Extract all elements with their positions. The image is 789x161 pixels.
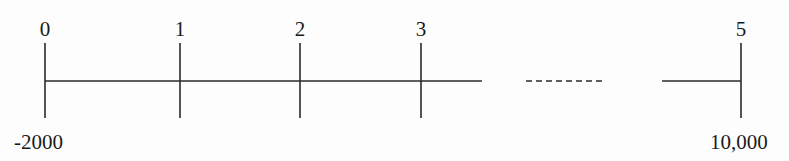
period-label-2: 2 [295,19,306,40]
period-label-0: 0 [40,19,51,40]
timeline-lines [0,0,789,161]
cash-flow-period-5: 10,000 [710,132,768,153]
cash-flow-period-0: -2000 [14,132,63,153]
period-label-3: 3 [416,19,427,40]
timeline-diagram: 0 1 2 3 5 -2000 10,000 [0,0,789,161]
period-label-1: 1 [175,19,186,40]
period-label-5: 5 [736,19,747,40]
